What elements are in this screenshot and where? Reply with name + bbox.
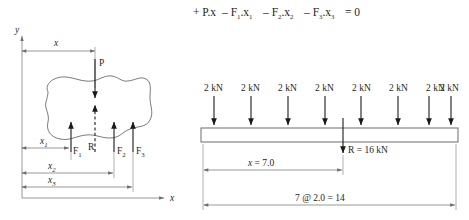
- x-axis-label: x: [169, 193, 175, 203]
- dimension-x7-label: x = 7.0: [247, 158, 274, 168]
- applied-load-P-label: P: [99, 58, 104, 68]
- force-F2-label: F2: [117, 146, 126, 158]
- equation-term-3: – F2.x2: [262, 6, 294, 20]
- figure-root: + P.x – F1.x1 – F2.x2 – F3.x3 = 0 y x x …: [0, 0, 469, 220]
- load-label-6: 2 kN: [389, 83, 408, 93]
- force-F3-label: F3: [136, 146, 145, 158]
- load-label-1: 2 kN: [204, 83, 223, 93]
- rigid-body-outline: [46, 76, 152, 140]
- equation-term-1: + P.x: [193, 6, 216, 18]
- dimension-span-label: 7 @ 2.0 = 14: [295, 193, 345, 203]
- dimension-x-label: x: [53, 38, 59, 48]
- load-label-3: 2 kN: [278, 83, 297, 93]
- dimension-x1-label: x1: [39, 136, 48, 148]
- load-label-2: 2 kN: [241, 83, 260, 93]
- left-diagram: y x x P R F1 F2 F3: [14, 25, 175, 203]
- equation-term-4: – F3.x3: [303, 6, 335, 20]
- load-label-4: 2 kN: [315, 83, 334, 93]
- dimension-x3-label: x3: [47, 175, 56, 187]
- load-label-5: 2 kN: [352, 83, 371, 93]
- resultant-R-label: R: [88, 142, 95, 152]
- resultant-R-beam-label: R = 16 kN: [348, 145, 388, 155]
- beam-rectangle: [201, 128, 458, 142]
- load-label-8: 2 kN: [440, 83, 459, 93]
- force-F1-label: F1: [73, 146, 82, 158]
- dimension-x2-label: x2: [47, 161, 56, 173]
- y-axis-label: y: [14, 25, 20, 35]
- right-diagram: 2 kN 2 kN 2 kN 2 kN 2 kN 2 kN 2 kN 2 kN …: [201, 83, 459, 210]
- equation-equals-zero: = 0: [345, 6, 360, 18]
- statics-figure-svg: + P.x – F1.x1 – F2.x2 – F3.x3 = 0 y x x …: [0, 0, 469, 220]
- equation-row: + P.x – F1.x1 – F2.x2 – F3.x3 = 0: [193, 6, 360, 20]
- equation-term-2: – F1.x1: [221, 6, 252, 20]
